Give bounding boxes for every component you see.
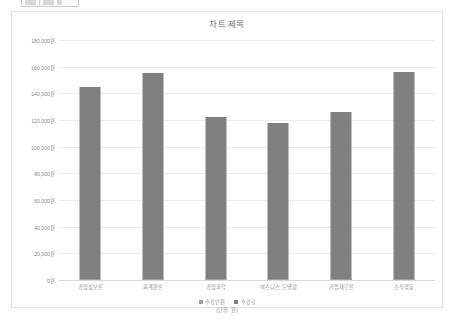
bar-수강인원[interactable]: [330, 279, 351, 280]
bar-수강인원[interactable]: [142, 279, 163, 280]
x-axis-category-label: 경영정보론: [78, 283, 103, 290]
bar-수강인원[interactable]: [80, 279, 101, 280]
bar-수강료[interactable]: [330, 112, 351, 280]
y-axis-tick-label: 80,000원: [34, 170, 55, 177]
legend-label: 수강인원: [205, 298, 225, 305]
bar-수강인원[interactable]: [268, 279, 289, 280]
toolbar-button-group[interactable]: [21, 0, 79, 7]
y-axis-tick-label: 60,000원: [34, 197, 55, 204]
unit-caption: (단위: 원): [12, 306, 442, 313]
legend-item[interactable]: 수강인원: [199, 298, 226, 305]
x-axis-category-label: 조직행동: [394, 283, 414, 290]
bar-series-group: [59, 40, 435, 280]
bar-수강료[interactable]: [142, 73, 163, 280]
x-axis-category-label: 회계원론: [143, 283, 163, 290]
bar-수강인원[interactable]: [393, 279, 414, 280]
legend-swatch: [234, 300, 238, 304]
y-axis-tick-label: 100,000원: [31, 143, 55, 150]
y-axis-tick-label: 180,000원: [31, 37, 55, 44]
x-axis-category-label: 경영과학: [206, 283, 226, 290]
plot-area: 0원20,000원40,000원60,000원80,000원100,000원12…: [59, 40, 435, 280]
toolbar-icon-3[interactable]: [57, 0, 62, 5]
bar-group[interactable]: [310, 40, 373, 280]
chart-legend[interactable]: 수강인원수강료: [12, 298, 442, 305]
toolbar-icon-2[interactable]: [43, 0, 54, 5]
y-axis-tick-label: 160,000원: [31, 63, 55, 70]
top-toolbar: [0, 0, 453, 9]
x-axis-category-label: 비즈니스 모델링: [260, 283, 296, 290]
bar-수강료[interactable]: [80, 87, 101, 280]
y-axis-tick-label: 20,000원: [34, 250, 55, 257]
chart-title: 차트 제목: [12, 17, 442, 29]
bar-수강료[interactable]: [268, 123, 289, 280]
legend-swatch: [199, 300, 203, 304]
legend-item[interactable]: 수강료: [234, 298, 256, 305]
chart-container[interactable]: 차트 제목 0원20,000원40,000원60,000원80,000원100,…: [11, 11, 443, 308]
x-axis-labels: 경영정보론회계원론경영과학비즈니스 모델링기업재무론조직행동: [59, 283, 435, 297]
bar-수강료[interactable]: [393, 72, 414, 280]
y-axis-tick-label: 0원: [47, 277, 55, 284]
bar-group[interactable]: [372, 40, 435, 280]
legend-label: 수강료: [241, 298, 256, 305]
y-axis-tick-label: 120,000원: [31, 117, 55, 124]
y-axis-tick-label: 40,000원: [34, 223, 55, 230]
y-axis-tick-label: 140,000원: [31, 90, 55, 97]
toolbar-icon-1[interactable]: [25, 0, 36, 5]
bar-group[interactable]: [59, 40, 122, 280]
toolbar-separator: [39, 0, 40, 5]
bar-group[interactable]: [122, 40, 185, 280]
gridline: 0원: [59, 280, 435, 281]
bar-수강인원[interactable]: [205, 279, 226, 280]
bar-group[interactable]: [184, 40, 247, 280]
x-axis-category-label: 기업재무론: [329, 283, 354, 290]
bar-수강료[interactable]: [205, 117, 226, 280]
bar-group[interactable]: [247, 40, 310, 280]
